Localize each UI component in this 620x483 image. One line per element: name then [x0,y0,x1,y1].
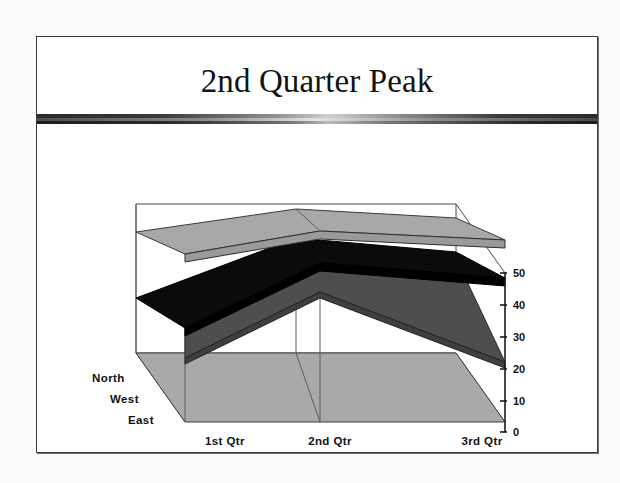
category-label-2nd-qtr: 2nd Qtr [308,435,352,447]
value-tick-label-10: 10 [513,395,525,407]
chart-svg: 50 40 30 20 10 0 North West East [37,132,599,454]
depth-label-north: North [92,372,125,384]
depth-axis-labels: North West East [92,372,154,426]
slide-page: 2nd Quarter Peak [0,0,620,483]
surface-chart: 50 40 30 20 10 0 North West East [37,132,599,454]
divider-band-bottom [37,121,597,124]
value-axis: 50 40 30 20 10 0 [500,267,525,438]
slide-canvas: 2nd Quarter Peak [36,36,598,453]
value-tick-label-0: 0 [513,426,519,438]
value-tick-label-30: 30 [513,331,525,343]
value-tick-label-40: 40 [513,299,525,311]
category-axis-labels: 1st Qtr 2nd Qtr 3rd Qtr [205,435,503,447]
value-tick-label-20: 20 [513,363,525,375]
value-tick-label-50: 50 [513,267,525,279]
category-label-3rd-qtr: 3rd Qtr [461,435,502,447]
depth-label-east: East [128,414,154,426]
category-label-1st-qtr: 1st Qtr [205,435,245,447]
page-title: 2nd Quarter Peak [201,65,434,98]
depth-label-west: West [110,393,139,405]
title-divider [37,114,597,126]
slide-title-area: 2nd Quarter Peak [37,55,597,107]
